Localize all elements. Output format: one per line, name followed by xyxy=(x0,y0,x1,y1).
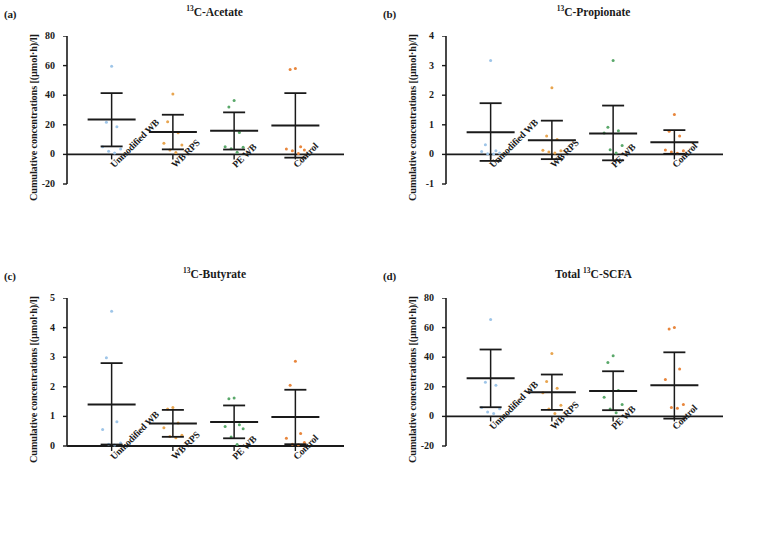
data-point xyxy=(285,148,288,151)
data-point xyxy=(480,150,483,153)
data-point xyxy=(115,125,118,128)
data-point xyxy=(550,352,553,355)
data-point xyxy=(489,59,492,62)
plot-area-b xyxy=(438,36,723,200)
title-text: C-SCFA xyxy=(591,268,632,280)
y-tick-label: 20 xyxy=(400,381,434,392)
panel-label-c: (c) xyxy=(4,270,16,282)
y-tick-label: 1 xyxy=(21,410,55,421)
panel-title-c: 13C-Butyrate xyxy=(60,268,369,280)
data-point xyxy=(621,403,624,406)
plot-area-a xyxy=(59,36,344,200)
data-point xyxy=(612,354,615,357)
data-point xyxy=(233,397,236,400)
data-point xyxy=(678,368,681,371)
data-point xyxy=(105,121,108,124)
y-tick-label: 4 xyxy=(21,322,55,333)
data-point xyxy=(227,397,230,400)
data-point xyxy=(171,406,174,409)
data-point xyxy=(673,326,676,329)
y-tick-label: 5 xyxy=(21,292,55,303)
data-point xyxy=(299,432,302,435)
y-tick-label: 2 xyxy=(400,89,434,100)
panel-title-d: Total 13C-SCFA xyxy=(439,268,748,280)
panel-label-d: (d) xyxy=(383,270,396,282)
y-tick-label: 0 xyxy=(21,440,55,451)
y-tick-label: 0 xyxy=(400,410,434,421)
data-point xyxy=(101,428,104,431)
data-point xyxy=(294,360,297,363)
data-point xyxy=(489,318,492,321)
title-text: C-Butyrate xyxy=(190,268,246,280)
y-tick-label: 60 xyxy=(400,322,434,333)
y-tick-label: 2 xyxy=(21,381,55,392)
y-tick-label: 0 xyxy=(400,148,434,159)
data-point xyxy=(559,404,562,407)
data-point xyxy=(606,361,609,364)
data-point xyxy=(486,152,489,155)
figure-root: (a)13C-AcetateCumulative concentrations … xyxy=(0,0,758,556)
data-point xyxy=(547,151,550,154)
data-point xyxy=(110,310,113,313)
data-point xyxy=(171,93,174,96)
data-point xyxy=(682,403,685,406)
data-point xyxy=(291,149,294,152)
data-point xyxy=(606,126,609,129)
data-point xyxy=(294,67,297,70)
title-superscript: 13 xyxy=(186,4,194,13)
data-point xyxy=(678,135,681,138)
data-point xyxy=(224,425,227,428)
data-point xyxy=(484,381,487,384)
data-point xyxy=(162,142,165,145)
title-prefix: Total xyxy=(555,268,583,280)
panel-c: (c)13C-ButyrateCumulative concentrations… xyxy=(0,262,379,540)
y-tick-label: -20 xyxy=(21,178,55,189)
data-point xyxy=(603,396,606,399)
title-superscript: 13 xyxy=(557,4,565,13)
y-tick-label: 40 xyxy=(400,351,434,362)
data-point xyxy=(224,145,227,148)
data-point xyxy=(617,129,620,132)
panel-b: (b)13C-PropionateCumulative concentratio… xyxy=(379,0,758,278)
data-point xyxy=(676,407,679,410)
error-bar-1 xyxy=(88,93,136,146)
data-point xyxy=(289,384,292,387)
data-point xyxy=(484,143,487,146)
data-point xyxy=(242,427,245,430)
data-point xyxy=(670,406,673,409)
panel-title-b: 13C-Propionate xyxy=(439,6,748,18)
data-point xyxy=(673,113,676,116)
y-tick-label: 0 xyxy=(21,148,55,159)
panel-label-b: (b) xyxy=(383,8,396,20)
plot-area-c xyxy=(59,298,344,462)
data-point xyxy=(110,65,113,68)
panel-label-a: (a) xyxy=(4,8,16,20)
data-point xyxy=(668,328,671,331)
panel-d: (d)Total 13C-SCFACumulative concentratio… xyxy=(379,262,758,540)
data-point xyxy=(612,59,615,62)
data-point xyxy=(615,411,618,414)
data-point xyxy=(550,86,553,89)
data-point xyxy=(105,356,108,359)
title-superscript: 13 xyxy=(583,266,591,275)
y-tick-label: -1 xyxy=(400,178,434,189)
y-tick-label: 40 xyxy=(21,89,55,100)
data-point xyxy=(299,145,302,148)
data-point xyxy=(238,423,241,426)
y-tick-label: 3 xyxy=(21,351,55,362)
y-tick-label: -20 xyxy=(400,440,434,451)
y-tick-label: 4 xyxy=(400,30,434,41)
y-tick-label: 80 xyxy=(21,30,55,41)
y-tick-label: 20 xyxy=(21,119,55,130)
panel-title-a: 13C-Acetate xyxy=(60,6,369,18)
data-point xyxy=(289,68,292,71)
data-point xyxy=(285,437,288,440)
y-tick-label: 60 xyxy=(21,60,55,71)
y-tick-label: 80 xyxy=(400,292,434,303)
data-point xyxy=(162,426,165,429)
data-point xyxy=(233,99,236,102)
data-point xyxy=(107,150,110,153)
data-point xyxy=(115,420,118,423)
panel-a: (a)13C-AcetateCumulative concentrations … xyxy=(0,0,379,278)
y-tick-label: 3 xyxy=(400,60,434,71)
